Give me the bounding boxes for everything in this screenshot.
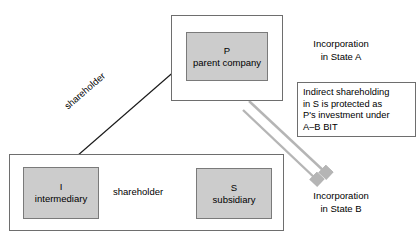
entity-p-desc: parent company [193, 57, 261, 69]
entity-i-desc: intermediary [35, 193, 87, 205]
entity-s-desc: subsidiary [213, 194, 256, 206]
entity-box-i[interactable]: I intermediary [23, 167, 99, 219]
incorporation-state-b-label: Incorporation in State B [295, 190, 387, 216]
entity-p-code: P [224, 45, 230, 57]
bit-protection-callout: Indirect shareholding in S is protected … [297, 82, 416, 137]
entity-box-p[interactable]: P parent company [186, 32, 268, 81]
entity-box-s[interactable]: S subsidiary [196, 168, 272, 219]
diagram-canvas: P parent company I intermediary S subsid… [0, 0, 416, 243]
edge-label-shareholder-horizontal: shareholder [113, 186, 163, 197]
entity-s-code: S [231, 182, 237, 194]
incorporation-state-a-label: Incorporation in State A [295, 38, 387, 64]
entity-i-code: I [60, 181, 63, 193]
